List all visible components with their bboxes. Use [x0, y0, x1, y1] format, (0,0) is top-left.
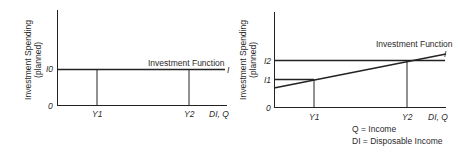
right-tick-y1: Y1 [309, 112, 320, 122]
right-tick-zero: 0 [266, 103, 271, 113]
diagrams: Investment Spending (planned) I0 0 Y1 Y2… [0, 0, 476, 154]
right-curve-label: Investment Function [376, 39, 453, 49]
svg-text:Investment Spending: Investment Spending [23, 20, 33, 100]
left-chart: Investment Spending (planned) I0 0 Y1 Y2… [23, 10, 230, 119]
left-tick-y1: Y1 [92, 109, 103, 119]
left-curve-end: I [227, 65, 230, 75]
right-tick-i1: I1 [264, 75, 271, 85]
legend-di: DI = Disposable Income [352, 136, 443, 146]
legend-q: Q = Income [352, 124, 396, 134]
right-investment-function [274, 54, 446, 88]
left-tick-zero: 0 [48, 101, 53, 111]
right-curve-end: I [444, 49, 447, 59]
svg-text:(planned): (planned) [248, 42, 258, 78]
left-x-label: DI, Q [209, 109, 229, 119]
right-chart: Investment Spending (planned) I2 I1 0 Y1… [238, 12, 453, 146]
left-y-label: Investment Spending (planned) [23, 20, 43, 100]
left-tick-y2: Y2 [184, 109, 195, 119]
svg-text:Investment Spending: Investment Spending [238, 20, 248, 100]
right-x-label: DI, Q [428, 112, 448, 122]
right-tick-y2: Y2 [402, 112, 413, 122]
left-curve-label: Investment Function [148, 58, 225, 68]
left-tick-i0: I0 [46, 64, 53, 74]
svg-text:(planned): (planned) [33, 42, 43, 78]
right-y-label: Investment Spending (planned) [238, 20, 258, 100]
right-tick-i2: I2 [264, 56, 271, 66]
